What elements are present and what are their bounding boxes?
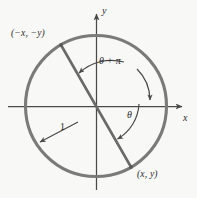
point-label-negative: (−x, −y) <box>11 29 45 39</box>
point-negative-marker <box>59 43 63 47</box>
angle-label-theta: θ <box>127 110 132 120</box>
point-positive-marker <box>129 165 133 169</box>
radius-label: 1 <box>60 122 65 132</box>
radius-leader-line <box>40 122 78 142</box>
theta-plus-pi-arc-right <box>137 69 150 100</box>
angle-label-theta-plus-pi: θ + π <box>99 56 121 66</box>
point-label-positive: (x, y) <box>137 170 158 180</box>
x-axis-label: x <box>183 113 187 123</box>
y-axis-label: y <box>102 6 106 16</box>
unit-circle-figure: (−x, −y) (x, y) x y θ + π θ 1 <box>0 0 197 198</box>
